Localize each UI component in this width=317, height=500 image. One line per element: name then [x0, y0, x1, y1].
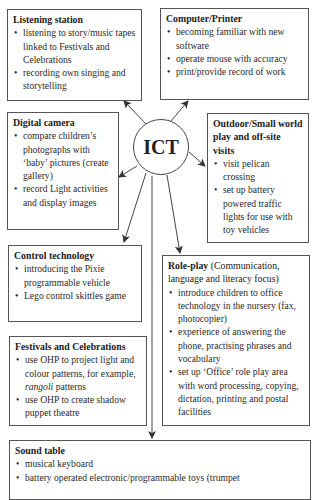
listening-station-box: Listening station listening to story/mus…: [7, 9, 142, 101]
outdoor-play-box: Outdoor/Small world play and off-site vi…: [207, 113, 309, 243]
computer-printer-box: Computer/Printer becoming familiar with …: [160, 8, 309, 100]
list-item: record Light activities and display imag…: [13, 182, 113, 209]
list-item: recording own singing and storytelling: [13, 66, 136, 93]
arrow-to-listening: [124, 101, 146, 124]
box-title: Control technology: [14, 249, 136, 262]
ict-center-node: ICT: [133, 119, 189, 175]
box-title: Festivals and Celebrations: [15, 340, 141, 353]
box-title: Outdoor/Small world play and off-site vi…: [213, 117, 303, 157]
role-play-box: Role-play (Communication, language and l…: [162, 255, 310, 426]
list-item: listening to story/music tapes linked to…: [13, 26, 136, 66]
festivals-celebrations-box: Festivals and Celebrations use OHP to pr…: [9, 336, 147, 426]
item-text: use OHP to project light and colour patt…: [25, 354, 136, 378]
list-item: set up battery powered traffic lights fo…: [213, 183, 303, 236]
sound-table-box: Sound table musical keyboard battery ope…: [9, 440, 311, 500]
item-text-tail: patterns: [53, 381, 86, 392]
list-item: introducing the Pixie programmable vehic…: [14, 262, 136, 289]
list-item: set up ‘Office’ role play area with word…: [168, 365, 304, 418]
box-title: Computer/Printer: [166, 12, 303, 25]
list-item: introduce children to office technology …: [168, 286, 304, 326]
box-title: Sound table: [15, 444, 305, 457]
list-item: use OHP to project light and colour patt…: [15, 353, 141, 393]
list-item: becoming familiar with new software: [166, 25, 303, 52]
item-italic: rangoli: [25, 381, 53, 392]
list-item: operate mouse with accuracy: [166, 52, 303, 65]
digital-camera-box: Digital camera compare children’s photog…: [7, 112, 119, 230]
list-item: use OHP to create shadow puppet theatre: [15, 393, 141, 420]
title-bold: Role-play: [168, 260, 208, 271]
list-item: experience of answering the phone, pract…: [168, 325, 304, 365]
box-title: Digital camera: [13, 116, 113, 129]
list-item: print/provide record of work: [166, 65, 303, 78]
box-title: Listening station: [13, 13, 136, 26]
list-item: battery operated electronic/programmable…: [15, 471, 305, 484]
list-item: musical keyboard: [15, 457, 305, 470]
list-item: Lego control skittles game: [14, 289, 136, 302]
list-item: visit pelican crossing: [213, 157, 303, 184]
control-technology-box: Control technology introducing the Pixie…: [8, 245, 142, 322]
list-item: compare children’s photographs with ‘bab…: [13, 129, 113, 182]
box-title: Role-play (Communication, language and l…: [168, 259, 304, 286]
